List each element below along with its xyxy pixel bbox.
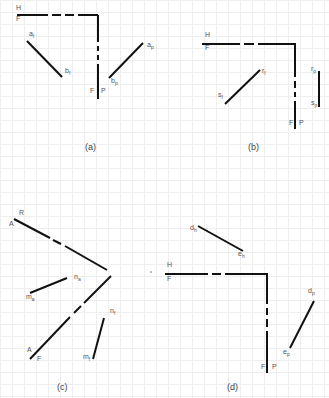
point-label: rf <box>262 67 266 76</box>
point-label: ma <box>26 293 35 302</box>
fold-label: F <box>16 15 20 22</box>
fold-label: F <box>261 363 265 370</box>
line-de-horizontal <box>198 226 243 251</box>
panel-b: H F F P rf sf rp sp (b) <box>202 31 319 152</box>
fold-label: H <box>16 4 21 11</box>
point-label: dh <box>190 224 197 233</box>
line-mn-auxiliary <box>30 278 67 293</box>
fold-line-ra <box>14 219 107 270</box>
line-rs-front <box>225 70 260 104</box>
panel-caption: (d) <box>227 382 238 392</box>
fold-label: R <box>19 209 24 216</box>
panel-caption: (a) <box>85 142 96 152</box>
fold-label: H <box>167 261 172 268</box>
line-ab-profile <box>109 43 143 78</box>
point-label: bf <box>65 67 71 76</box>
point-label: ep <box>283 348 290 357</box>
panel-d: H F F P dh eh dp ep (d) <box>150 224 315 392</box>
fold-label: F <box>289 119 293 126</box>
fold-label: F <box>167 275 171 282</box>
fold-label: A <box>27 346 32 353</box>
point-label: sf <box>218 91 224 100</box>
point-label: eh <box>238 250 245 259</box>
panel-a: H F F P af bf ap bp (a) <box>16 4 154 152</box>
fold-label: P <box>299 119 304 126</box>
fold-label: F <box>37 355 41 362</box>
point-label: na <box>74 273 81 282</box>
line-de-profile <box>290 301 314 348</box>
fold-label: P <box>272 363 277 370</box>
fold-label: F <box>205 44 209 51</box>
fold-label: H <box>205 31 210 38</box>
fold-label: F <box>90 87 94 94</box>
panel-c: R A A F na ma nf mf (c) <box>9 209 116 392</box>
point-label: bp <box>111 77 118 86</box>
point-label: rp <box>311 65 316 74</box>
panel-caption: (b) <box>248 142 259 152</box>
point-label: mf <box>83 353 91 362</box>
point-label: ap <box>147 41 154 50</box>
point-label: af <box>29 30 35 39</box>
panel-caption: (c) <box>57 382 68 392</box>
orthographic-projection-diagram: H F F P af bf ap bp (a) H F F P rf sf <box>0 0 329 398</box>
fold-label: P <box>101 87 106 94</box>
line-mn-front <box>93 318 104 359</box>
point-label: nf <box>110 307 116 316</box>
fold-label: A <box>9 220 14 227</box>
point-label: sp <box>311 99 318 108</box>
line-ab-front <box>27 41 62 77</box>
point-label: dp <box>308 287 315 296</box>
stray-dot <box>150 271 152 273</box>
